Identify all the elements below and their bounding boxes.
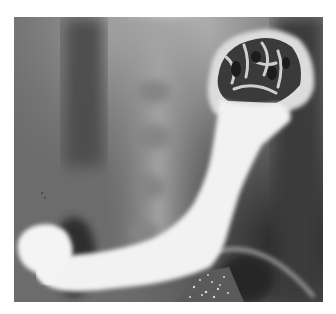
radiograph-frame — [14, 17, 323, 302]
radiograph-image — [14, 17, 323, 302]
